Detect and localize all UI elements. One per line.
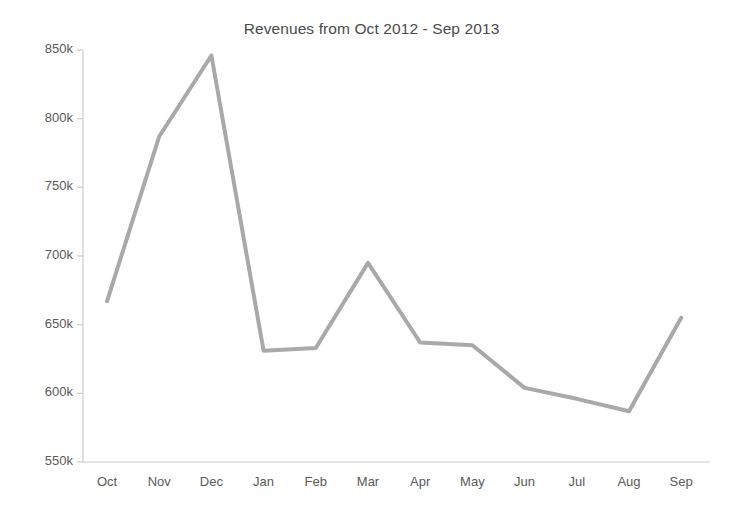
x-axis-tick-label: Jan — [234, 474, 294, 489]
x-axis-tick-label: Aug — [599, 474, 659, 489]
data-line — [107, 55, 681, 411]
line-chart-plot-area — [0, 0, 743, 515]
x-axis-tick-label: Sep — [651, 474, 711, 489]
y-axis-tick-label: 600k — [5, 384, 73, 399]
x-axis-tick-label: Feb — [286, 474, 346, 489]
x-axis-tick-label: Dec — [181, 474, 241, 489]
x-axis-tick-label: Oct — [77, 474, 137, 489]
y-axis-tick-label: 550k — [5, 453, 73, 468]
x-axis-tick-label: Jun — [495, 474, 555, 489]
y-axis-tick-label: 750k — [5, 178, 73, 193]
y-axis-tick-label: 800k — [5, 110, 73, 125]
y-axis-tick-label: 650k — [5, 316, 73, 331]
x-axis-tick-label: Apr — [390, 474, 450, 489]
chart-figure: Revenues from Oct 2012 - Sep 2013 550k60… — [0, 0, 743, 515]
axis-tick-marks — [77, 50, 83, 462]
revenue-line-series — [107, 55, 681, 411]
x-axis-tick-label: Nov — [129, 474, 189, 489]
x-axis-tick-label: May — [442, 474, 502, 489]
y-axis-tick-label: 700k — [5, 247, 73, 262]
y-axis-tick-label: 850k — [5, 41, 73, 56]
x-axis-tick-label: Jul — [547, 474, 607, 489]
x-axis-tick-label: Mar — [338, 474, 398, 489]
